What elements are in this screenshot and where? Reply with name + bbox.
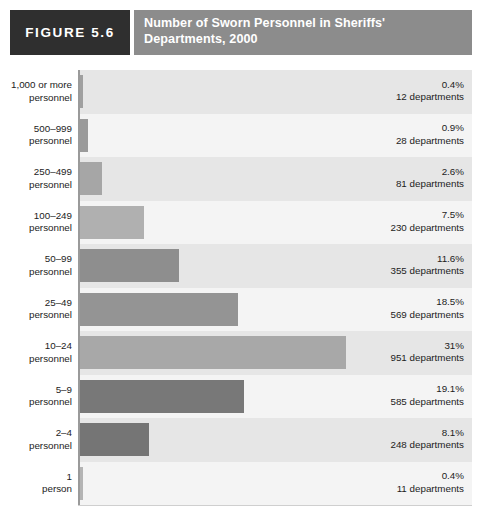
bar-row: 7.5% 230 departments: [80, 201, 472, 245]
figure-title: Number of Sworn Personnel in Sheriffs' D…: [144, 16, 472, 47]
bar-value-label: 19.1% 585 departments: [390, 383, 464, 408]
bar-row: 19.1% 585 departments: [80, 375, 472, 419]
category-label-line1: 250–499: [34, 166, 72, 178]
bar[interactable]: [80, 293, 238, 326]
bar-value-label: 0.4% 11 departments: [397, 470, 464, 495]
category-label-line1: 5–9: [56, 384, 72, 396]
bar-value-label: 0.4% 12 departments: [396, 79, 464, 104]
category-label-line1: 10–24: [45, 340, 72, 352]
category-label: 25–49personnel: [0, 288, 72, 332]
bar-rows: 0.4% 12 departments0.9% 28 departments2.…: [80, 70, 472, 505]
category-label-line1: 1: [67, 471, 72, 483]
category-label: 1person: [0, 462, 72, 506]
bar[interactable]: [80, 249, 179, 282]
bar[interactable]: [80, 119, 88, 152]
bar-value-label: 18.5% 569 departments: [390, 296, 464, 321]
category-label-line1: 1,000 or more: [11, 79, 72, 91]
category-label-line2: personnel: [29, 135, 72, 147]
bar-value-label: 7.5% 230 departments: [390, 209, 464, 234]
bar-row: 18.5% 569 departments: [80, 288, 472, 332]
category-label-line2: personnel: [29, 309, 72, 321]
figure-number-badge: FIGURE 5.6: [10, 10, 130, 55]
category-axis-labels: 1,000 or morepersonnel500–999personnel25…: [0, 70, 72, 505]
category-label: 1,000 or morepersonnel: [0, 70, 72, 114]
category-label-line1: 50–99: [45, 253, 72, 265]
bar[interactable]: [80, 467, 83, 500]
bar-row: 2.6% 81 departments: [80, 157, 472, 201]
bar-row: 0.4% 12 departments: [80, 70, 472, 114]
bar-value-label: 0.9% 28 departments: [396, 122, 464, 147]
category-label: 10–24personnel: [0, 331, 72, 375]
category-label-line2: personnel: [29, 266, 72, 278]
category-label-line2: personnel: [29, 222, 72, 234]
bar[interactable]: [80, 423, 149, 456]
figure-title-bar: Number of Sworn Personnel in Sheriffs' D…: [134, 10, 472, 55]
category-label: 2–4personnel: [0, 418, 72, 462]
category-label-line1: 2–4: [56, 427, 72, 439]
category-label: 500–999personnel: [0, 114, 72, 158]
chart-region: 1,000 or morepersonnel500–999personnel25…: [0, 68, 483, 508]
bar[interactable]: [80, 336, 346, 369]
category-label-line2: personnel: [29, 179, 72, 191]
bar-row: 0.4% 11 departments: [80, 462, 472, 506]
bar[interactable]: [80, 380, 244, 413]
bar-row: 11.6% 355 departments: [80, 244, 472, 288]
bar-value-label: 31% 951 departments: [390, 340, 464, 365]
figure-number-label: FIGURE 5.6: [25, 25, 115, 40]
category-label-line2: person: [42, 483, 72, 495]
figure-header: FIGURE 5.6 Number of Sworn Personnel in …: [0, 0, 483, 62]
bar-row: 31% 951 departments: [80, 331, 472, 375]
category-label-line2: personnel: [29, 440, 72, 452]
axis-baseline: [78, 505, 472, 506]
bar-value-label: 11.6% 355 departments: [390, 253, 464, 278]
bar-value-label: 2.6% 81 departments: [396, 166, 464, 191]
bar-value-label: 8.1% 248 departments: [390, 427, 464, 452]
category-label-line2: personnel: [29, 353, 72, 365]
category-label: 5–9personnel: [0, 375, 72, 419]
category-label-line1: 25–49: [45, 297, 72, 309]
category-label-line1: 500–999: [34, 123, 72, 135]
bar[interactable]: [80, 206, 144, 239]
category-label: 50–99personnel: [0, 244, 72, 288]
plot-area: 0.4% 12 departments0.9% 28 departments2.…: [78, 70, 472, 505]
bar[interactable]: [80, 75, 83, 108]
bar-row: 8.1% 248 departments: [80, 418, 472, 462]
category-label-line2: personnel: [29, 92, 72, 104]
category-label-line1: 100–249: [34, 210, 72, 222]
category-label: 100–249personnel: [0, 201, 72, 245]
category-label-line2: personnel: [29, 396, 72, 408]
bar-row: 0.9% 28 departments: [80, 114, 472, 158]
bar[interactable]: [80, 162, 102, 195]
category-label: 250–499personnel: [0, 157, 72, 201]
